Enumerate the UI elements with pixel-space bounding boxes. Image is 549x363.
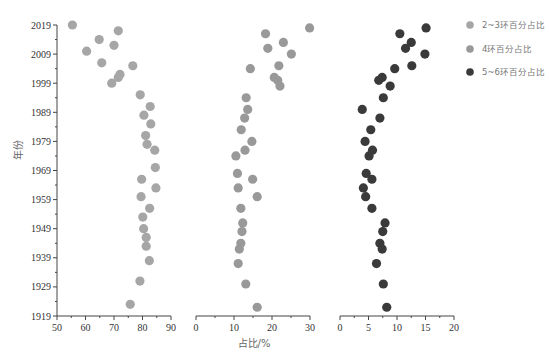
x-axis-title: 占比/% xyxy=(238,337,271,349)
data-point xyxy=(234,259,243,268)
data-point xyxy=(142,140,151,149)
x-tick-label: 30 xyxy=(305,322,315,333)
x-tick-label: 50 xyxy=(52,322,62,333)
data-point xyxy=(68,20,77,29)
data-point xyxy=(360,137,369,146)
y-tick-label: 1999 xyxy=(31,78,51,89)
panel-3: 05101520 xyxy=(338,23,460,333)
data-point xyxy=(139,224,148,233)
y-tick-label: 1929 xyxy=(31,281,51,292)
x-tick-label: 20 xyxy=(449,322,459,333)
data-point xyxy=(275,82,284,91)
data-point xyxy=(361,192,370,201)
data-point xyxy=(305,23,314,32)
legend-label: 2~3环百分占比 xyxy=(482,20,545,30)
y-tick-label: 1939 xyxy=(31,252,51,263)
data-point xyxy=(238,218,247,227)
data-point xyxy=(135,276,144,285)
data-point xyxy=(107,79,116,88)
data-point xyxy=(150,146,159,155)
data-point xyxy=(375,114,384,123)
legend-marker-icon xyxy=(466,45,474,53)
y-tick-label: 1949 xyxy=(31,223,51,234)
data-point xyxy=(114,26,123,35)
legend: 2~3环百分占比4环百分占比5~6环百分占比 xyxy=(466,20,545,77)
data-point xyxy=(240,146,249,155)
data-point xyxy=(146,119,155,128)
data-point xyxy=(139,111,148,120)
data-point xyxy=(235,244,244,253)
data-point xyxy=(261,29,270,38)
data-point xyxy=(82,47,91,56)
y-tick-label: 1919 xyxy=(31,311,51,322)
data-point xyxy=(253,192,262,201)
legend-item: 4环百分占比 xyxy=(466,44,532,54)
data-point xyxy=(366,125,375,134)
data-point xyxy=(287,50,296,59)
x-tick-label: 70 xyxy=(109,322,119,333)
data-point xyxy=(142,233,151,242)
y-axis-title: 年份 xyxy=(12,140,24,160)
data-point xyxy=(240,114,249,123)
data-point xyxy=(126,300,135,309)
data-point xyxy=(248,175,257,184)
data-point xyxy=(128,61,137,70)
x-tick-label: 20 xyxy=(267,322,277,333)
data-point xyxy=(243,105,252,114)
data-point xyxy=(378,244,387,253)
data-point xyxy=(97,58,106,67)
data-point xyxy=(421,23,430,32)
data-point xyxy=(109,41,118,50)
chart-canvas: 2019200919991989197919691959194919391929… xyxy=(0,0,549,363)
y-tick-label: 2019 xyxy=(31,20,51,31)
data-point xyxy=(279,38,288,47)
ring-percentage-scatter-chart: 2019200919991989197919691959194919391929… xyxy=(0,0,549,363)
data-point xyxy=(231,151,240,160)
x-tick-label: 10 xyxy=(229,322,239,333)
data-point xyxy=(136,90,145,99)
data-point xyxy=(241,279,250,288)
data-point xyxy=(379,93,388,102)
data-point xyxy=(237,227,246,236)
x-tick-label: 0 xyxy=(194,322,199,333)
x-tick-label: 0 xyxy=(338,322,343,333)
data-point xyxy=(136,192,145,201)
y-tick-label: 1989 xyxy=(31,107,51,118)
legend-label: 4环百分占比 xyxy=(482,44,532,54)
data-point xyxy=(253,303,262,312)
data-point xyxy=(263,44,272,53)
data-point xyxy=(372,259,381,268)
data-point xyxy=(420,50,429,59)
x-tick-label: 5 xyxy=(366,322,371,333)
data-point xyxy=(379,279,388,288)
data-point xyxy=(364,151,373,160)
data-point xyxy=(274,61,283,70)
data-point xyxy=(95,35,104,44)
x-tick-label: 80 xyxy=(138,322,148,333)
y-axis: 2019200919991989197919691959194919391929… xyxy=(31,20,57,322)
data-point xyxy=(138,212,147,221)
x-tick-label: 60 xyxy=(81,322,91,333)
data-point xyxy=(378,227,387,236)
data-point xyxy=(395,29,404,38)
data-point xyxy=(146,102,155,111)
data-point xyxy=(367,175,376,184)
data-point xyxy=(151,183,160,192)
panels: 5060708090010203005101520 xyxy=(52,20,459,333)
data-point xyxy=(145,204,154,213)
data-point xyxy=(237,125,246,134)
data-point xyxy=(401,44,410,53)
data-point xyxy=(236,204,245,213)
y-tick-label: 1969 xyxy=(31,165,51,176)
data-point xyxy=(407,61,416,70)
y-tick-label: 1959 xyxy=(31,194,51,205)
data-point xyxy=(137,175,146,184)
y-tick-label: 1979 xyxy=(31,136,51,147)
data-point xyxy=(380,218,389,227)
panel-1: 5060708090 xyxy=(52,20,176,333)
data-point xyxy=(247,137,256,146)
data-point xyxy=(234,183,243,192)
y-tick-label: 2009 xyxy=(31,49,51,60)
data-point xyxy=(151,163,160,172)
data-point xyxy=(359,183,368,192)
